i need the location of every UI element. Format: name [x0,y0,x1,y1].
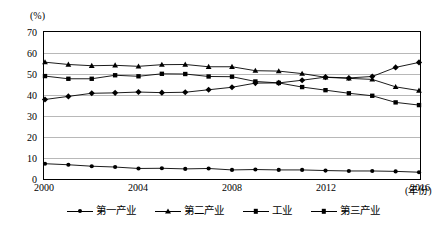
legend-diamond-icon [311,206,337,216]
legend-item-4[interactable]: 第三产业 [311,206,380,217]
data-point [135,89,141,95]
data-point [66,163,70,167]
legend-label: 第三产业 [340,206,380,217]
data-point [416,59,422,65]
data-point [160,166,164,170]
data-point [299,77,305,83]
chart-legend: 第一产业第二产业工业第三产业 [0,206,447,217]
y-tick-30: 30 [27,111,37,122]
data-point [394,169,398,173]
data-point [417,103,421,107]
data-point [89,90,95,96]
legend-label: 第一产业 [96,206,136,217]
legend-triangle-icon [155,206,181,216]
data-point [182,89,188,95]
y-axis-unit-label: (%) [30,10,45,21]
data-point [113,165,117,169]
data-point [183,72,187,76]
data-point [113,73,117,77]
y-tick-40: 40 [27,90,37,101]
data-point [253,167,257,171]
y-tick-60: 60 [27,48,37,59]
data-point [323,88,327,92]
data-point [230,168,234,172]
plot-area [43,31,421,180]
x-tick-2000: 2000 [34,182,54,193]
data-point [300,85,304,89]
x-axis-name-label: (年份) [405,182,432,197]
data-point [183,167,187,171]
series-1 [43,162,421,175]
y-tick-70: 70 [27,27,37,38]
data-point [206,87,212,93]
x-tick-2008: 2008 [222,182,242,193]
x-tick-2012: 2012 [316,182,336,193]
data-point [369,73,375,79]
data-point [136,74,140,78]
data-point [370,94,374,98]
chart-root: (%) 010203040506070 20002004200820122016… [0,0,447,233]
data-point [206,74,210,78]
legend-square-icon [243,206,269,216]
data-point [159,90,165,96]
data-point [42,96,48,102]
data-point [207,166,211,170]
legend-item-2[interactable]: 第二产业 [155,206,224,217]
data-point [393,100,397,104]
y-tick-20: 20 [27,132,37,143]
data-point [43,74,47,78]
data-point [323,168,327,172]
y-tick-10: 10 [27,153,37,164]
data-point [42,59,48,64]
data-point [300,168,304,172]
data-point [347,91,351,95]
data-point [370,169,374,173]
data-point [393,64,399,70]
series-lines [44,32,420,179]
data-point [65,93,71,99]
data-point [90,77,94,81]
data-point [160,72,164,76]
data-point [136,166,140,170]
data-point [417,170,421,174]
legend-item-3[interactable]: 工业 [243,206,292,217]
data-point [230,75,234,79]
legend-item-1[interactable]: 第一产业 [67,206,136,217]
data-point [347,169,351,173]
data-point [229,84,235,90]
data-point [90,164,94,168]
legend-label: 工业 [272,206,292,217]
legend-label: 第二产业 [184,206,224,217]
legend-dot-icon [67,206,93,216]
x-tick-2004: 2004 [128,182,148,193]
y-tick-50: 50 [27,69,37,80]
data-point [66,77,70,81]
data-point [43,162,47,166]
data-point [112,90,118,96]
data-point [277,168,281,172]
